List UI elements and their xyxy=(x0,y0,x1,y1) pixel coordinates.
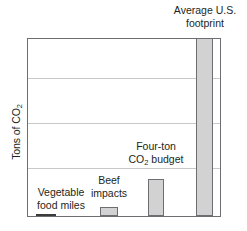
bar-label-line1: Average U.S. xyxy=(162,4,247,17)
bar-label-average-us-footprint: Average U.S. footprint xyxy=(162,4,247,29)
gridline-1 xyxy=(28,78,220,79)
co2-comparison-bar-chart: Tons of CO2 Vegetable food miles Beef im… xyxy=(0,0,247,231)
gridline-3 xyxy=(28,168,220,169)
y-axis-title-subscript: 2 xyxy=(15,104,24,108)
bar-label-line2: footprint xyxy=(162,17,247,30)
gridline-2 xyxy=(28,123,220,124)
bar-beef-impacts xyxy=(100,207,118,216)
bar-label-line2-prefix: CO xyxy=(129,153,145,165)
bar-average-us-footprint xyxy=(196,38,213,216)
bar-label-line2: CO2 budget xyxy=(116,153,196,168)
bar-label-line2-subscript: 2 xyxy=(144,158,148,167)
bar-label-line2-suffix: budget xyxy=(148,153,183,165)
y-axis-title: Tons of CO2 xyxy=(10,77,22,187)
bar-label-line1: Beef xyxy=(78,174,140,187)
bar-vegetable-food-miles xyxy=(36,214,56,216)
bar-label-four-ton-co2-budget: Four-ton CO2 budget xyxy=(116,140,196,167)
bar-label-beef-impacts: Beef impacts xyxy=(78,174,140,199)
bar-four-ton-co2-budget xyxy=(148,179,164,216)
bar-label-line2: impacts xyxy=(78,187,140,200)
y-axis-title-text: Tons of CO xyxy=(10,108,22,160)
bar-label-line1: Four-ton xyxy=(116,140,196,153)
bar-label-line2: food miles xyxy=(20,199,102,212)
